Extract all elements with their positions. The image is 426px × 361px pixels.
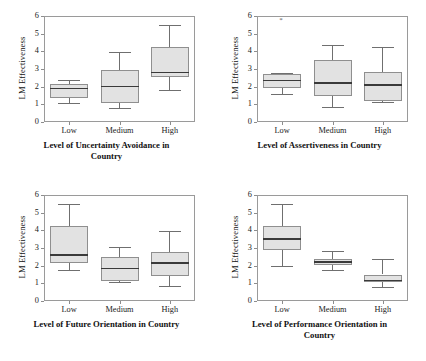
whisker-cap-lower <box>109 108 131 109</box>
x-tick-label: Low <box>44 126 94 135</box>
y-tick-label: 0 <box>238 296 252 305</box>
y-tick-label: 6 <box>238 190 252 199</box>
panel-future-orientation: LM Effectiveness0123456LowMediumHighLeve… <box>0 181 213 361</box>
whisker-upper <box>282 204 283 226</box>
whisker-cap-upper <box>372 259 394 260</box>
x-tick-label: Low <box>257 305 307 314</box>
median-line <box>263 238 301 240</box>
median-line <box>50 254 88 256</box>
x-tick-mark <box>120 301 121 304</box>
whisker-cap-upper <box>109 247 131 248</box>
whisker-cap-upper <box>58 80 80 81</box>
x-tick-label: Low <box>44 305 94 314</box>
median-line <box>101 268 139 270</box>
median-line <box>101 86 139 88</box>
x-tick-mark <box>282 122 283 125</box>
y-tick-label: 6 <box>25 190 39 199</box>
y-tick-label: 4 <box>25 225 39 234</box>
whisker-cap-lower <box>159 286 181 287</box>
box-medium <box>314 60 352 96</box>
x-tick-label: High <box>145 126 195 135</box>
whisker-upper <box>119 247 120 257</box>
whisker-cap-upper <box>271 204 293 205</box>
whisker-lower <box>169 77 170 90</box>
whisker-cap-lower <box>58 103 80 104</box>
y-tick-label: 6 <box>238 11 252 20</box>
median-line <box>364 84 402 86</box>
y-tick-mark <box>41 195 44 196</box>
whisker-upper <box>69 204 70 226</box>
x-tick-label: Medium <box>95 126 145 135</box>
y-tick-mark <box>41 301 44 302</box>
whisker-cap-upper <box>159 25 181 26</box>
whisker-upper <box>332 251 333 259</box>
whisker-cap-lower <box>322 107 344 108</box>
whisker-lower <box>332 96 333 107</box>
whisker-upper <box>119 52 120 70</box>
y-tick-mark <box>41 16 44 17</box>
x-axis-label-line: Level of Future Orientation in Country <box>0 319 213 330</box>
y-tick-mark <box>254 266 257 267</box>
y-tick-label: 4 <box>25 46 39 55</box>
x-tick-mark <box>282 301 283 304</box>
y-tick-label: 5 <box>25 208 39 217</box>
y-tick-label: 0 <box>25 296 39 305</box>
x-axis-label-line: Level of Assertiveness in Country <box>213 140 426 151</box>
y-tick-mark <box>254 283 257 284</box>
y-tick-mark <box>41 230 44 231</box>
x-tick-label: Medium <box>308 305 358 314</box>
box-low <box>50 84 88 98</box>
x-tick-mark <box>120 122 121 125</box>
whisker-cap-upper <box>159 231 181 232</box>
whisker-cap-lower <box>271 266 293 267</box>
whisker-cap-lower <box>109 282 131 283</box>
whisker-cap-upper <box>372 47 394 48</box>
x-axis-label-line: Country <box>0 151 213 162</box>
x-tick-label: High <box>358 305 408 314</box>
y-tick-mark <box>41 122 44 123</box>
median-line <box>314 82 352 84</box>
y-tick-mark <box>254 34 257 35</box>
y-tick-label: 0 <box>238 117 252 126</box>
whisker-upper <box>382 47 383 72</box>
y-tick-label: 5 <box>238 29 252 38</box>
y-tick-mark <box>254 213 257 214</box>
y-tick-label: 2 <box>238 261 252 270</box>
whisker-cap-lower <box>271 94 293 95</box>
median-line <box>364 280 402 282</box>
y-tick-label: 6 <box>25 11 39 20</box>
whisker-cap-upper <box>109 52 131 53</box>
whisker-cap-lower <box>159 90 181 91</box>
y-tick-label: 1 <box>25 99 39 108</box>
outlier-marker: * <box>279 17 283 24</box>
x-tick-mark <box>69 122 70 125</box>
whisker-upper <box>169 231 170 251</box>
y-tick-mark <box>41 34 44 35</box>
x-tick-mark <box>383 122 384 125</box>
whisker-lower <box>169 276 170 286</box>
x-axis-label: Level of Assertiveness in Country <box>213 140 426 151</box>
y-tick-label: 1 <box>25 278 39 287</box>
x-tick-mark <box>69 301 70 304</box>
panel-assertiveness: LM Effectiveness0123456*LowMediumHighLev… <box>213 0 426 181</box>
whisker-cap-lower <box>372 287 394 288</box>
whisker-upper <box>382 259 383 275</box>
x-axis-label-line: Level of Performance Orientation in <box>213 319 426 330</box>
x-tick-mark <box>170 122 171 125</box>
y-tick-mark <box>254 195 257 196</box>
y-tick-label: 3 <box>25 64 39 73</box>
y-tick-mark <box>41 69 44 70</box>
y-tick-label: 4 <box>238 46 252 55</box>
y-tick-label: 5 <box>25 29 39 38</box>
y-tick-mark <box>41 266 44 267</box>
y-tick-mark <box>41 87 44 88</box>
y-tick-label: 1 <box>238 278 252 287</box>
y-tick-mark <box>254 69 257 70</box>
y-tick-mark <box>254 16 257 17</box>
x-tick-label: High <box>145 305 195 314</box>
panel-uncertainty-avoidance: LM Effectiveness0123456LowMediumHighLeve… <box>0 0 213 181</box>
y-tick-label: 2 <box>25 261 39 270</box>
panel-performance-orientation: LM Effectiveness0123456LowMediumHighLeve… <box>213 181 426 361</box>
y-tick-label: 3 <box>238 64 252 73</box>
whisker-upper <box>332 45 333 60</box>
